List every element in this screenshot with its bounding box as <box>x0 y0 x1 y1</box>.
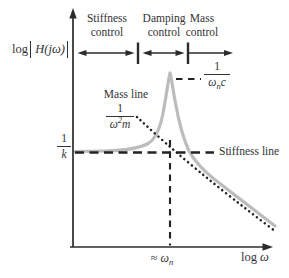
stiffness-asymptote-fraction: 1 k <box>46 132 82 161</box>
mass-region-arrow <box>189 50 233 56</box>
fraction-denominator: ωnc <box>204 74 229 89</box>
mass-line-label: Mass line <box>97 88 155 100</box>
fraction-numerator: 1 <box>116 102 124 116</box>
y-axis-label: log H(jω) <box>12 41 70 58</box>
region-label-stiffness-control: Stiffness control <box>77 12 137 39</box>
fraction-denominator: k <box>57 146 70 161</box>
damping-region-arrow <box>143 50 185 56</box>
damping-peak-fraction: 1 ωnc <box>197 60 237 89</box>
stiffness-line-label: Stiffness line <box>219 145 279 157</box>
x-axis-label: log ω <box>241 250 269 265</box>
stiffness-region-arrow <box>78 50 135 56</box>
magnitude-bar-right <box>67 41 68 58</box>
resonance-tick-label: ≈ ωn <box>142 251 182 266</box>
y-axis <box>69 8 76 247</box>
frequency-response-figure: Stiffness control Damping control Mass c… <box>0 0 289 278</box>
mass-asymptote-fraction: 1 ω2m <box>100 102 140 131</box>
fraction-numerator: 1 <box>213 60 221 74</box>
region-label-mass-control: Mass control <box>172 12 232 39</box>
magnitude-bar-left <box>30 41 31 58</box>
y-axis-arrowhead <box>69 8 76 19</box>
fraction-denominator: ω2m <box>106 116 135 131</box>
fraction-numerator: 1 <box>60 132 68 146</box>
